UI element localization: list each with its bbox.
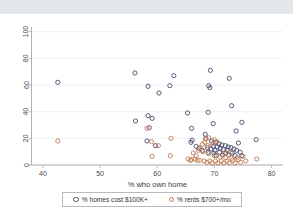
scatter-plot-canvas: 020406080100 4050607080 % who own home: [0, 0, 303, 212]
data-point: [133, 119, 137, 123]
legend-marker-circle-icon: [169, 197, 175, 203]
x-tick-label: 80: [268, 170, 276, 177]
data-point: [145, 139, 149, 143]
data-point: [168, 84, 172, 88]
data-point: [233, 161, 237, 165]
data-point: [229, 104, 233, 108]
y-axis-tick-labels: 020406080100: [23, 26, 30, 167]
data-point: [240, 120, 244, 124]
legend-label-rents: % rents $700+/mo: [177, 196, 231, 203]
data-point: [239, 160, 243, 164]
data-point: [149, 140, 153, 144]
data-point: [189, 126, 193, 130]
y-tick-label: 40: [23, 108, 30, 116]
data-point: [234, 129, 238, 133]
legend-label-homes: % homes cost $100K+: [82, 196, 148, 203]
scatter-plot-figure: 020406080100 4050607080 % who own home %…: [0, 0, 303, 212]
data-point: [157, 91, 161, 95]
x-tick-label: 70: [211, 170, 219, 177]
data-point: [203, 132, 207, 136]
data-point: [244, 159, 248, 163]
x-tick-label: 50: [96, 170, 104, 177]
x-axis-title: % who own home: [128, 180, 187, 189]
data-point: [146, 114, 150, 118]
data-point: [206, 110, 210, 114]
chart-legend: % homes cost $100K+ % rents $700+/mo: [62, 192, 242, 207]
data-point: [133, 71, 137, 75]
x-tick-label: 40: [39, 170, 47, 177]
legend-entry-rents: % rents $700+/mo: [169, 196, 231, 203]
y-tick-label: 60: [23, 81, 30, 89]
y-tick-label: 80: [23, 54, 30, 62]
x-axis-tick-labels: 4050607080: [39, 170, 276, 177]
x-tick-label: 60: [153, 170, 161, 177]
data-point: [236, 141, 240, 145]
legend-marker-circle-icon: [73, 197, 79, 203]
data-point: [227, 76, 231, 80]
data-point: [56, 80, 60, 84]
data-point: [255, 157, 259, 161]
data-point: [168, 154, 172, 158]
data-point: [150, 154, 154, 158]
y-tick-label: 20: [23, 134, 30, 142]
y-tick-label: 0: [23, 163, 30, 167]
data-point: [211, 122, 215, 126]
data-point: [208, 68, 212, 72]
y-tick-label: 100: [23, 26, 30, 38]
data-point: [172, 74, 176, 78]
legend-entry-homes: % homes cost $100K+: [73, 196, 148, 203]
data-point: [150, 116, 154, 120]
data-point: [156, 144, 160, 148]
data-point: [56, 139, 60, 143]
